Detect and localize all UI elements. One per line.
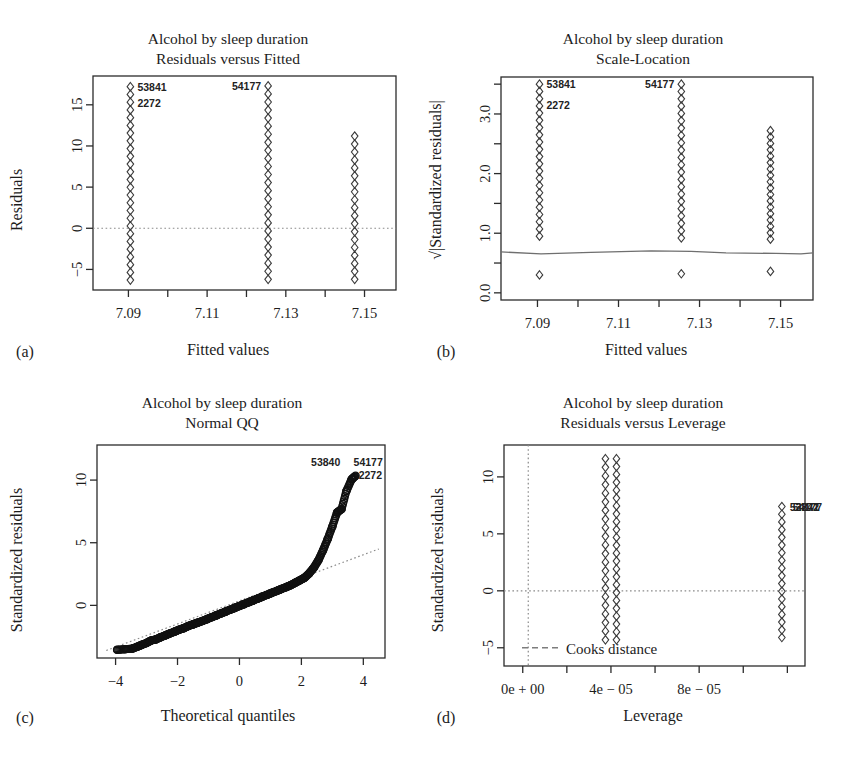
point-label-2272: 2272 (359, 469, 383, 481)
point-label-53840: 53840 (311, 456, 340, 468)
y-tick-label: 15 (69, 98, 85, 113)
y-tick-label: 0 (73, 602, 89, 609)
y-tick-label: −5 (480, 640, 496, 655)
panel-c-title-line1: Alcohol by sleep duration (142, 394, 303, 411)
y-tick-label: 5 (480, 530, 496, 537)
x-tick-label: 7.09 (525, 315, 550, 331)
x-tick-label: 7.15 (768, 315, 793, 331)
panel-a-svg: Alcohol by sleep duration Residuals vers… (0, 0, 421, 380)
panel-c-plot-area: −4−2024051053840541772272 (73, 445, 385, 689)
panel-d-xlabel: Leverage (623, 707, 683, 725)
data-point-col1 (265, 259, 272, 267)
panel-b-title-line2: Scale-Location (596, 50, 690, 67)
plot-box (97, 445, 385, 658)
panel-a-title-line2: Residuals versus Fitted (156, 50, 300, 67)
data-point-col0 (602, 489, 609, 497)
data-point-col0 (602, 627, 609, 635)
panel-c-letter: (c) (16, 709, 34, 727)
panel-normal-qq: Alcohol by sleep duration Normal QQ −4−2… (0, 380, 421, 761)
y-tick-label: 5 (69, 183, 85, 190)
cooks-distance-legend-label: Cooks distance (566, 641, 658, 657)
data-point-col1 (265, 82, 272, 90)
data-point-col0 (602, 558, 609, 566)
y-tick-label: 0.0 (477, 284, 493, 302)
x-tick-label: 0 (236, 673, 243, 689)
point-label-2272: 2272 (137, 97, 161, 109)
data-point-col1 (265, 162, 272, 170)
panel-a-xlabel: Fitted values (187, 341, 269, 358)
outlier-point-col2 (767, 267, 774, 275)
data-point-col1 (265, 130, 272, 138)
y-tick-label: 1.0 (477, 224, 493, 242)
point-label-2272: 2272 (796, 501, 820, 513)
data-point-col1 (265, 154, 272, 162)
x-tick-label: 7.11 (606, 315, 631, 331)
data-point-col1 (265, 219, 272, 227)
panel-scale-location: Alcohol by sleep duration Scale-Location… (421, 0, 842, 380)
panel-c-title-line2: Normal QQ (185, 414, 259, 431)
data-point-col1 (265, 106, 272, 114)
data-point-col0 (602, 523, 609, 531)
data-point-col1 (265, 178, 272, 186)
panel-d-plot-area: 0e + 004e − 058e − 05−50510Cooks distanc… (480, 445, 822, 697)
data-point-col0 (602, 472, 609, 480)
x-tick-label: 7.11 (195, 305, 220, 321)
panel-b-svg: Alcohol by sleep duration Scale-Location… (421, 0, 842, 380)
point-label-54177: 54177 (645, 78, 674, 90)
data-point-col0 (602, 515, 609, 523)
y-tick-label: 10 (69, 139, 85, 154)
y-tick-label: −5 (69, 262, 85, 277)
panel-residuals-vs-fitted: Alcohol by sleep duration Residuals vers… (0, 0, 421, 380)
data-point-col0 (602, 454, 609, 462)
point-label-54177: 54177 (354, 456, 383, 468)
data-point-col0 (602, 532, 609, 540)
panel-d-title-line2: Residuals versus Leverage (560, 414, 725, 431)
x-tick-label: 4 (360, 673, 368, 689)
x-tick-label: −4 (108, 673, 124, 689)
data-point-col0 (602, 601, 609, 609)
x-tick-label: 7.15 (352, 305, 377, 321)
data-point-col0 (602, 463, 609, 471)
panel-a-letter: (a) (16, 343, 34, 361)
panel-b-xlabel: Fitted values (605, 341, 687, 358)
panel-b-ylabel: √|Standardized residuals| (427, 100, 445, 260)
point-label-53841: 53841 (546, 78, 575, 90)
data-point-col1 (265, 90, 272, 98)
point-label-54177: 54177 (232, 80, 261, 92)
panel-residuals-vs-leverage: Alcohol by sleep duration Residuals vers… (421, 380, 842, 761)
loess-smooth-line (501, 251, 813, 254)
data-point-col0 (602, 610, 609, 618)
outlier-point-col0 (536, 271, 543, 279)
plot-box (504, 445, 805, 666)
y-tick-label: 10 (480, 470, 496, 485)
panel-b-letter: (b) (437, 343, 456, 361)
data-point-col0 (602, 592, 609, 600)
x-tick-label: 7.13 (273, 305, 298, 321)
panel-a-ylabel: Residuals (8, 169, 25, 231)
panel-a-title-line1: Alcohol by sleep duration (148, 30, 309, 47)
y-tick-label: 10 (73, 473, 89, 488)
x-tick-label: −2 (170, 673, 185, 689)
data-point-col1 (265, 98, 272, 106)
data-point-col1 (265, 195, 272, 203)
data-point-col0 (602, 506, 609, 514)
data-point-col0 (602, 541, 609, 549)
y-tick-label: 3.0 (477, 105, 493, 123)
data-point-col1 (265, 267, 272, 275)
data-point-col0 (602, 567, 609, 575)
panel-c-ylabel: Standardized residuals (8, 488, 25, 632)
y-tick-label: 0 (69, 225, 85, 232)
data-point-col1 (265, 275, 272, 283)
data-point-col1 (265, 203, 272, 211)
point-label-2272: 2272 (546, 99, 570, 111)
x-tick-label: 2 (298, 673, 305, 689)
data-point-col1 (265, 235, 272, 243)
data-point-col1 (265, 146, 272, 154)
data-point-col1 (265, 138, 272, 146)
data-point-col1 (265, 122, 272, 130)
diagnostic-plots-figure: Alcohol by sleep duration Residuals vers… (0, 0, 842, 761)
y-tick-label: 0 (480, 587, 496, 594)
panel-d-ylabel: Standardized residuals (429, 488, 446, 632)
panel-b-title-line1: Alcohol by sleep duration (563, 30, 724, 47)
data-point-col0 (602, 618, 609, 626)
